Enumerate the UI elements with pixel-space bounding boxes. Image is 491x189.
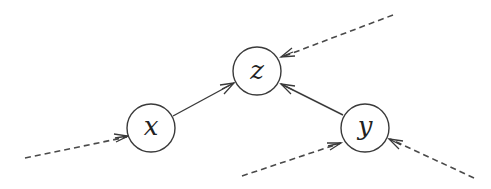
edge-external-to-x: [25, 134, 128, 158]
node-y-label: y: [357, 111, 373, 141]
node-z-label: z: [249, 55, 264, 85]
edge-external-to-y-right: [389, 139, 474, 178]
edge-external-to-z: [281, 15, 393, 57]
node-y: y: [341, 104, 389, 152]
edge-y-to-z: [281, 84, 343, 115]
graph-diagram: z x y: [0, 0, 491, 189]
node-x: x: [127, 104, 175, 152]
node-z: z: [233, 47, 281, 95]
edge-x-to-z: [173, 83, 234, 116]
node-x-label: x: [144, 111, 159, 141]
edge-external-to-y-left: [242, 143, 341, 176]
